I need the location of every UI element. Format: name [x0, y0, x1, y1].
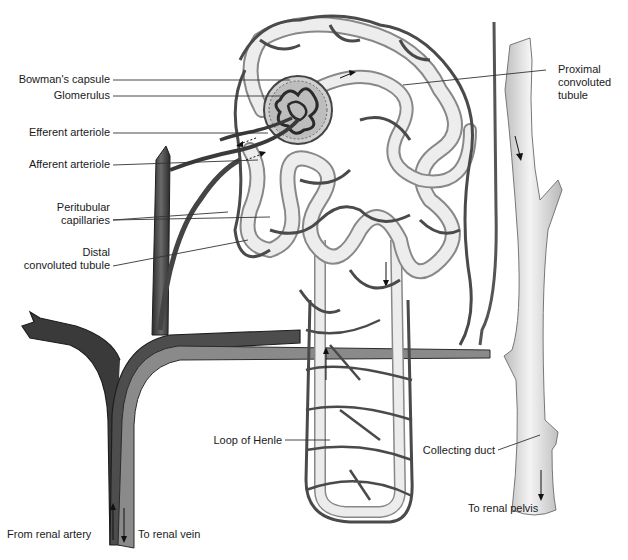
label-peritubular-line2: capillaries — [10, 214, 110, 227]
label-proximal-line1: Proximal — [558, 63, 611, 76]
label-distal-line1: Distal — [10, 246, 110, 259]
label-proximal-line2: convoluted — [558, 76, 611, 89]
label-from-renal-artery: From renal artery — [7, 528, 91, 541]
label-loop-of-henle: Loop of Henle — [180, 434, 282, 447]
label-glomerulus: Glomerulus — [10, 89, 110, 102]
label-afferent-arteriole: Afferent arteriole — [10, 158, 110, 171]
label-distal-line2: convoluted tubule — [10, 259, 110, 272]
label-collecting-duct: Collecting duct — [400, 444, 495, 457]
label-peritubular-line1: Peritubular — [10, 201, 110, 214]
label-distal-convoluted-tubule: Distal convoluted tubule — [10, 246, 110, 272]
label-efferent-arteriole: Efferent arteriole — [10, 126, 110, 139]
label-peritubular-capillaries: Peritubular capillaries — [10, 201, 110, 227]
convoluted-tubules — [248, 24, 471, 271]
label-to-renal-pelvis: To renal pelvis — [468, 502, 538, 515]
collecting-duct — [480, 22, 562, 515]
label-to-renal-vein: To renal vein — [138, 528, 200, 541]
label-bowmans-capsule: Bowman's capsule — [10, 73, 110, 86]
label-proximal-line3: tubule — [558, 89, 611, 102]
label-proximal-convoluted-tubule: Proximal convoluted tubule — [558, 63, 611, 102]
